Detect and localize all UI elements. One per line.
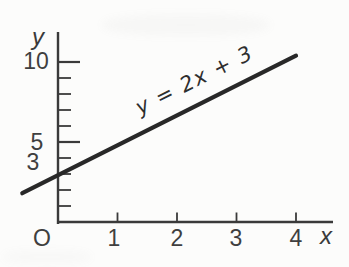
textbook-graph-figure: 10 5 3 O 1 2 3 4 y x y = 2x + 3 <box>0 0 349 267</box>
axes-group <box>57 32 333 224</box>
line-chart: 10 5 3 O 1 2 3 4 y x y = 2x + 3 <box>0 0 349 267</box>
y-tick-label-10: 10 <box>23 48 49 74</box>
data-line-group <box>22 56 296 194</box>
y-tick-label-3: 3 <box>27 149 40 175</box>
x-axis-title: x <box>319 222 333 249</box>
plotted-line <box>22 56 296 194</box>
x-tick-label-3: 3 <box>230 225 243 251</box>
origin-label: O <box>33 225 51 251</box>
x-tick-label-1: 1 <box>108 225 121 251</box>
y-axis-title: y <box>30 23 46 50</box>
x-tick-label-4: 4 <box>290 225 303 251</box>
x-tick-label-2: 2 <box>171 225 184 251</box>
